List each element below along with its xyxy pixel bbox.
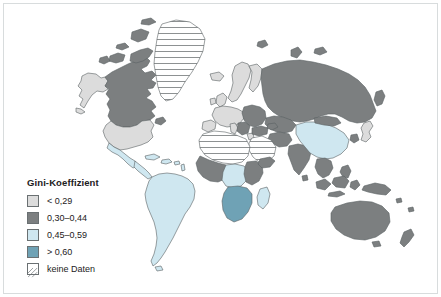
legend-item-high: 0,45–0,59: [27, 227, 145, 243]
region-pacific-islet-a: [396, 198, 402, 203]
legend-swatch-high: [27, 229, 39, 241]
region-sri-lanka: [302, 175, 308, 181]
legend-swatch-veryhigh: [27, 246, 39, 258]
gini-coefficient-world-map-figure: Gini-Koeffizient < 0,29 0,30–0,44 0,45–0…: [0, 0, 441, 297]
legend-item-low: < 0,29: [27, 193, 145, 209]
map-legend: Gini-Koeffizient < 0,29 0,30–0,44 0,45–0…: [27, 177, 145, 278]
legend-item-mid: 0,30–0,44: [27, 210, 145, 226]
legend-item-nodata: keine Daten: [27, 261, 145, 277]
legend-label-veryhigh: > 0,60: [47, 247, 72, 257]
region-puerto-rico: [174, 161, 180, 165]
legend-title: Gini-Koeffizient: [27, 177, 145, 188]
legend-label-nodata: keine Daten: [47, 264, 95, 274]
legend-label-high: 0,45–0,59: [47, 230, 87, 240]
legend-swatch-low: [27, 195, 39, 207]
legend-swatch-mid: [27, 212, 39, 224]
hatch-pattern-icon: [28, 268, 38, 278]
legend-item-veryhigh: > 0,60: [27, 244, 145, 260]
region-pacific-islet-b: [408, 207, 414, 212]
region-lesser-antilles: [181, 164, 185, 171]
region-tasmania: [372, 241, 381, 247]
legend-swatch-nodata: [27, 263, 39, 275]
legend-label-mid: 0,30–0,44: [47, 213, 87, 223]
region-turkey: [252, 126, 268, 136]
legend-label-low: < 0,29: [47, 196, 72, 206]
